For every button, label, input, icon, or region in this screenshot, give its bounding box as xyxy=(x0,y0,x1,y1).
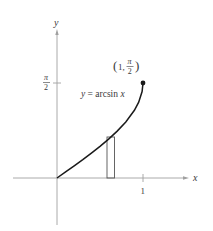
svg-text:π: π xyxy=(44,73,49,82)
arcsin-graph: y x 1 π 2 ( 1, π 2 ) y = arcsin x xyxy=(0,0,213,231)
svg-text:2: 2 xyxy=(44,83,48,92)
y-tick-label-pi-over-2: π 2 xyxy=(43,73,50,92)
svg-text:2: 2 xyxy=(128,67,132,76)
svg-text:): ) xyxy=(135,58,139,73)
function-label: y = arcsin x xyxy=(80,89,125,99)
y-axis-arrow-icon xyxy=(55,29,58,35)
svg-text:π: π xyxy=(128,57,133,66)
endpoint-label: ( 1, π 2 ) xyxy=(113,57,139,76)
y-axis-label: y xyxy=(53,17,59,28)
endpoint-dot xyxy=(141,81,146,86)
svg-text:1,: 1, xyxy=(118,62,125,72)
svg-text:(: ( xyxy=(113,58,117,73)
x-axis-arrow-icon xyxy=(183,176,189,179)
x-axis-label: x xyxy=(192,172,198,183)
representative-rectangle xyxy=(107,137,115,178)
x-tick-label-1: 1 xyxy=(141,186,146,196)
